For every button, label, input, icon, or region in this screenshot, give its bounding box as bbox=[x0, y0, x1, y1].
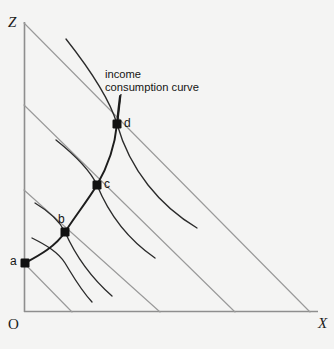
annotation-line-2: consumption curve bbox=[105, 81, 199, 94]
budget-line-1 bbox=[24, 263, 72, 312]
point-label-d: d bbox=[124, 116, 131, 130]
x-axis-label: X bbox=[318, 315, 327, 332]
point-marker-c bbox=[93, 181, 102, 190]
indifference-curve-1 bbox=[32, 238, 92, 302]
point-label-a: a bbox=[10, 254, 17, 268]
annotation-line-1: income bbox=[105, 68, 199, 81]
point-label-c: c bbox=[104, 177, 110, 191]
point-marker-a bbox=[21, 259, 30, 268]
budget-line-4 bbox=[24, 23, 310, 312]
figure-canvas bbox=[0, 0, 334, 349]
point-marker-d bbox=[113, 120, 122, 129]
origin-label: O bbox=[8, 316, 19, 333]
indifference-curve-figure: Z X O income consumption curve a b c d bbox=[0, 0, 334, 349]
indifference-curve-3 bbox=[56, 140, 155, 258]
budget-lines-group bbox=[24, 23, 310, 312]
point-label-b: b bbox=[58, 212, 65, 226]
z-axis-label: Z bbox=[8, 14, 16, 31]
income-consumption-curve-annotation: income consumption curve bbox=[105, 68, 199, 93]
point-marker-b bbox=[61, 228, 70, 237]
budget-line-3 bbox=[24, 105, 235, 312]
